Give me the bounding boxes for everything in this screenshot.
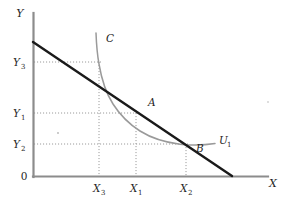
- y-axis-title: Y: [16, 7, 25, 20]
- x-tick-x2-sub: 2: [188, 189, 192, 197]
- x-axis-title: X: [268, 177, 278, 190]
- x-tick-label-x2: X 2: [179, 182, 192, 197]
- x-tick-x3-base: X: [92, 182, 101, 194]
- y-tick-label-y3: Y 3: [13, 56, 25, 71]
- curve-label-u1: U 1: [219, 134, 231, 149]
- x-tick-label-x1: X 1: [129, 182, 142, 197]
- y-tick-y3-base: Y: [13, 56, 21, 68]
- indifference-curve-u1: [96, 33, 215, 145]
- y-tick-y2-base: Y: [13, 138, 21, 150]
- y-tick-y3-sub: 3: [21, 63, 25, 71]
- y-tick-y2-sub: 2: [21, 145, 25, 153]
- reference-lines-group: [34, 62, 188, 177]
- x-tick-x2-base: X: [179, 182, 188, 194]
- y-tick-y1-sub: 1: [21, 114, 25, 122]
- y-tick-label-y2: Y 2: [13, 138, 25, 153]
- indifference-curve-figure: Y X 0 Y 3 Y 1 Y 2 X 3 X 1 X 2 C A: [0, 0, 285, 207]
- point-label-c: C: [106, 32, 114, 44]
- budget-line: [33, 42, 232, 176]
- x-tick-x1-base: X: [129, 182, 138, 194]
- figure-canvas: Y X 0 Y 3 Y 1 Y 2 X 3 X 1 X 2 C A: [0, 0, 285, 207]
- x-tick-x1-sub: 1: [138, 189, 142, 197]
- x-tick-x3-sub: 3: [101, 189, 105, 197]
- point-label-b: B: [195, 142, 204, 154]
- curve-label-u1-sub: 1: [227, 141, 231, 149]
- y-tick-y1-base: Y: [13, 107, 21, 119]
- axes-group: [33, 13, 268, 177]
- scan-speck: [57, 132, 59, 134]
- scan-speck: [267, 101, 269, 103]
- point-label-a: A: [147, 96, 156, 108]
- origin-label: 0: [21, 170, 28, 182]
- y-tick-label-y1: Y 1: [13, 107, 25, 122]
- x-tick-label-x3: X 3: [92, 182, 105, 197]
